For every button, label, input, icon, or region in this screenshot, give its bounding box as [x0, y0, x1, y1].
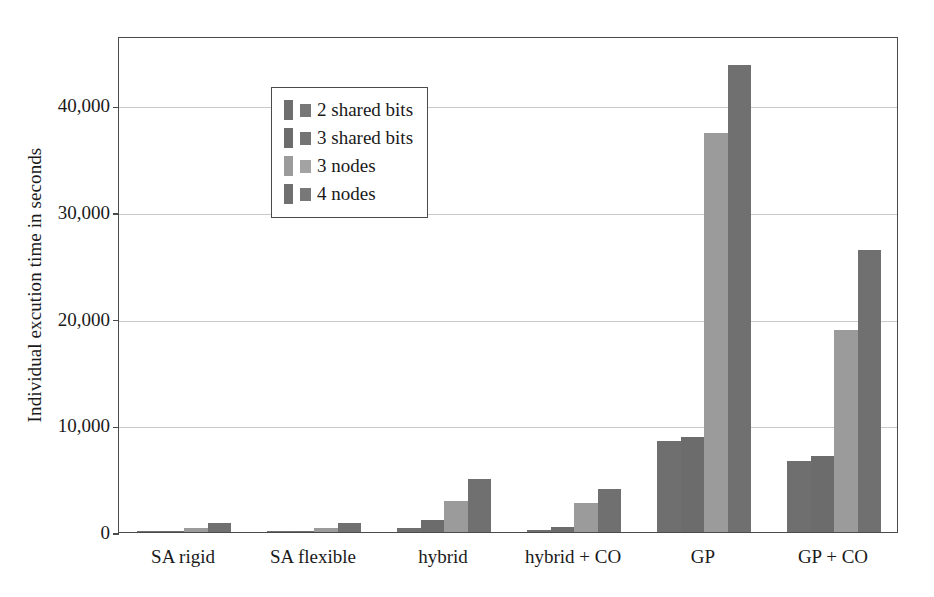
bar	[551, 527, 575, 532]
bar	[468, 479, 492, 532]
legend-swatch-primary	[284, 128, 293, 148]
legend-swatch-secondary	[300, 132, 311, 145]
bar	[728, 65, 752, 532]
bar	[787, 461, 811, 532]
bar	[704, 133, 728, 532]
bar	[657, 441, 681, 532]
bar	[527, 530, 551, 532]
chart-legend: 2 shared bits3 shared bits3 nodes4 nodes	[271, 87, 428, 218]
legend-swatch-icon	[283, 100, 313, 120]
legend-item: 2 shared bits	[283, 96, 413, 124]
y-axis-tick-labels: 010,00020,00030,00040,000	[10, 0, 110, 597]
y-axis-tick-label: 20,000	[14, 310, 110, 329]
legend-swatch-icon	[283, 128, 313, 148]
bar	[834, 330, 858, 532]
bar	[598, 489, 622, 532]
y-axis-tick-mark	[113, 533, 119, 534]
legend-swatch-secondary	[300, 104, 311, 117]
bar	[267, 531, 291, 532]
bar	[397, 528, 421, 532]
legend-item: 3 nodes	[283, 152, 413, 180]
legend-swatch-primary	[284, 156, 293, 176]
chart-figure: Individual excution time in seconds 010,…	[0, 0, 934, 597]
legend-item-label: 3 shared bits	[317, 128, 413, 148]
legend-item-label: 3 nodes	[317, 156, 376, 176]
plot-area: 2 shared bits3 shared bits3 nodes4 nodes	[118, 37, 898, 533]
bars-layer	[119, 38, 897, 532]
bar	[137, 531, 161, 532]
bar	[208, 523, 232, 532]
y-axis-tick-label: 40,000	[14, 96, 110, 115]
legend-swatch-secondary	[300, 160, 311, 173]
x-axis-group-label: GP + CO	[743, 546, 923, 568]
bar	[291, 531, 315, 532]
bar	[444, 501, 468, 532]
bar	[681, 437, 705, 532]
bar	[314, 528, 338, 532]
bar	[811, 456, 835, 532]
legend-swatch-icon	[283, 156, 313, 176]
legend-item-label: 2 shared bits	[317, 100, 413, 120]
bar	[421, 520, 445, 532]
legend-item: 3 shared bits	[283, 124, 413, 152]
bar	[574, 503, 598, 532]
y-axis-tick-label: 30,000	[14, 203, 110, 222]
legend-item: 4 nodes	[283, 180, 413, 208]
legend-swatch-primary	[284, 184, 293, 204]
bar	[161, 531, 185, 532]
legend-swatch-icon	[283, 184, 313, 204]
y-axis-tick-label: 10,000	[14, 416, 110, 435]
legend-swatch-secondary	[300, 188, 311, 201]
legend-swatch-primary	[284, 100, 293, 120]
legend-item-label: 4 nodes	[317, 184, 376, 204]
bar	[184, 528, 208, 532]
bar	[858, 250, 882, 532]
bar	[338, 523, 362, 532]
y-axis-tick-label: 0	[14, 523, 110, 542]
